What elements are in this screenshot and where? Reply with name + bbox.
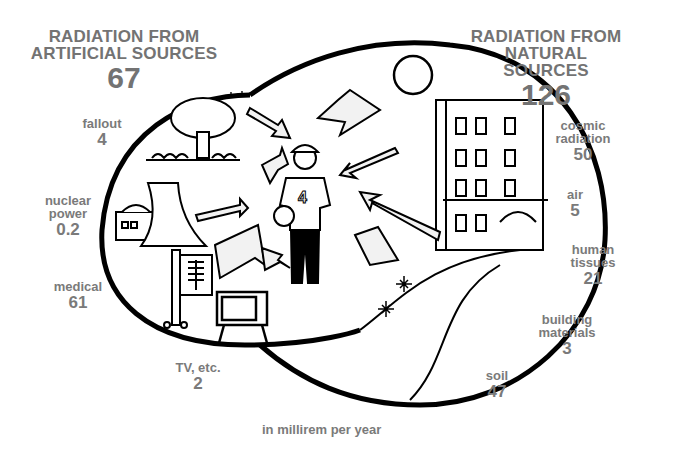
building-icon: [436, 100, 548, 250]
medical-label: medical 61: [46, 280, 110, 311]
cosmic-radiation-label: cosmic radiation 50: [545, 119, 621, 163]
tv-icon: [217, 292, 267, 343]
natural-total: 126: [461, 80, 631, 110]
nuclear-power-label: nuclear power 0.2: [36, 194, 100, 238]
artificial-title-line2: ARTIFICIAL SOURCES: [28, 45, 220, 62]
soil-sparkle-icons: [378, 276, 412, 317]
nuclear-plant-icon: [116, 183, 206, 246]
mushroom-cloud-icon: [146, 98, 240, 160]
artificial-sources-header: RADIATION FROM ARTIFICIAL SOURCES 67: [28, 28, 220, 93]
natural-sources-header: RADIATION FROM NATURAL SOURCES 126: [461, 28, 631, 110]
building-materials-label: building materials 3: [527, 313, 607, 357]
artificial-total: 67: [28, 63, 220, 93]
human-tissues-label: human tissues 21: [556, 243, 630, 287]
sun-icon: [394, 56, 432, 94]
air-label: air 5: [560, 188, 590, 219]
tv-label: TV, etc. 2: [166, 361, 230, 392]
natural-title-line2: NATURAL SOURCES: [461, 45, 631, 79]
artificial-title-line1: RADIATION FROM: [28, 28, 220, 45]
natural-title-line1: RADIATION FROM: [461, 28, 631, 45]
units-caption: in millirem per year: [262, 422, 381, 437]
xray-stand-icon: [164, 250, 212, 328]
svg-text:4: 4: [298, 189, 307, 206]
soil-label: soil 47: [477, 369, 517, 400]
fallout-label: fallout 4: [72, 117, 132, 148]
